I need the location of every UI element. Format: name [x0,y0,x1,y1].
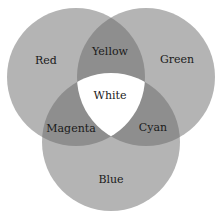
venn-diagram: Red Yellow Green White Magenta Cyan Blue [0,0,222,223]
label-green: Green [160,53,194,66]
label-white: White [94,89,127,102]
label-magenta: Magenta [46,122,96,135]
label-red: Red [35,54,57,67]
label-blue: Blue [98,173,123,186]
label-cyan: Cyan [139,121,167,134]
label-yellow: Yellow [91,45,128,58]
